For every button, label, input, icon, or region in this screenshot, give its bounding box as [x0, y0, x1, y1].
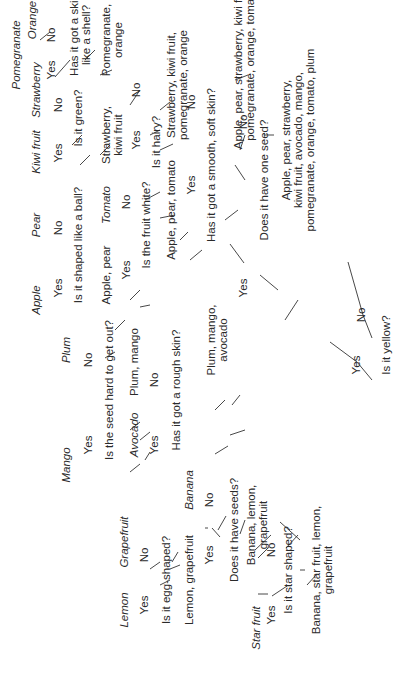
leaf-star-fruit: Star fruit — [250, 606, 262, 649]
set-strawberry-kiwi-pomegranate-orange: Strawberry, kiwi fruit, pomegranate, ora… — [165, 30, 189, 140]
answer-yes: Yes — [138, 596, 150, 615]
answer-yes: Yes — [148, 436, 160, 455]
set-line: Pomegranate, — [100, 4, 112, 76]
question-has-it-got-a-skin-like-a-shell: Has it got a skin like a shell? — [68, 0, 92, 76]
answer-yes: Yes — [237, 279, 249, 298]
set-lemon-grapefruit: Lemon, grapefruit — [183, 535, 195, 625]
answer-yes: Yes — [203, 546, 215, 565]
answer-no: No — [120, 195, 132, 210]
answer-yes: Yes — [265, 606, 277, 625]
set-plum-mango: Plum, mango — [128, 328, 140, 396]
leaf-orange: Orange — [26, 1, 38, 39]
answer-no: No — [130, 83, 142, 98]
question-is-it-egg-shaped: Is it egg-shaped? — [160, 536, 172, 624]
question-is-the-seed-hard-to-get-out: Is the seed hard to get out? — [103, 320, 115, 460]
answer-no: No — [138, 548, 150, 563]
answer-no: No — [52, 221, 64, 236]
question-is-it-green: Is it green? — [72, 90, 84, 147]
set-apple-pear: Apple, pear — [100, 246, 112, 305]
leaf-avocado: Avocado — [128, 413, 140, 458]
set-line: grapefruit — [322, 506, 334, 634]
set-line: pomegranate, orange — [177, 30, 189, 140]
question-is-it-yellow: Is it yellow? — [380, 315, 392, 374]
question-is-it-shaped-like-a-ball: Is it shaped like a ball? — [72, 187, 84, 303]
leaf-pear: Pear — [30, 213, 42, 237]
leaf-tomato: Tomato — [100, 186, 112, 224]
set-line: Banana, lemon, — [245, 485, 257, 566]
set-apple-pear-strawberry-kiwi-pomegranate-orange-tomato: Apple, pear, strawberry, kiwi fruit, pom… — [232, 0, 256, 149]
set-banana-lemon-grapefruit: Banana, lemon, grapefruit — [245, 485, 269, 566]
set-all-non-yellow: Apple, pear, strawberry, kiwi fruit, avo… — [280, 49, 316, 232]
set-line: pomegranate, orange, tomato — [244, 0, 256, 149]
set-plum-mango-avocado: Plum, mango, avocado — [205, 305, 229, 376]
set-banana-starfruit-lemon-grapefruit: Banana, star fruit, lemon, grapefruit — [310, 506, 334, 634]
leaf-mango: Mango — [60, 447, 72, 482]
question-is-the-fruit-white: Is the fruit white? — [140, 182, 152, 269]
fruit-decision-tree: Is it yellow? Yes No Banana, star fruit,… — [0, 0, 401, 680]
set-line: Apple, pear, strawberry, — [280, 49, 292, 232]
leaf-lemon: Lemon — [118, 592, 130, 627]
leaf-plum: Plum — [60, 337, 72, 363]
set-line: grapefruit — [257, 485, 269, 566]
question-is-it-hairy: Is it hairy? — [150, 116, 162, 168]
answer-yes: Yes — [120, 261, 132, 280]
answer-yes: Yes — [52, 279, 64, 298]
set-line: kiwi fruit, avocado, mango, — [292, 49, 304, 232]
answer-no: No — [82, 353, 94, 368]
set-strawberry-kiwi: Strawberry, kiwi fruit — [100, 106, 124, 164]
question-line: Has it got a skin — [68, 0, 80, 76]
set-line: Apple, pear, strawberry, kiwi fruit, — [232, 0, 244, 149]
set-line: Banana, star fruit, lemon, — [310, 506, 322, 634]
answer-no: No — [45, 28, 57, 43]
answer-yes: Yes — [130, 131, 142, 150]
leaf-grapefruit: Grapefruit — [118, 516, 130, 567]
set-line: Strawberry, — [100, 106, 112, 164]
leaf-banana: Banana — [183, 470, 195, 510]
set-line: Strawberry, kiwi fruit, — [165, 30, 177, 140]
set-line: avocado — [217, 305, 229, 376]
set-line: kiwi fruit — [112, 106, 124, 164]
answer-no: No — [148, 373, 160, 388]
question-does-it-have-one-seed: Does it have one seed? — [258, 120, 270, 241]
question-has-it-got-a-smooth-soft-skin: Has it got a smooth, soft skin? — [205, 88, 217, 242]
answer-yes: Yes — [45, 61, 57, 80]
set-line: Plum, mango, — [205, 305, 217, 376]
answer-yes: Yes — [185, 176, 197, 195]
answer-no: No — [203, 493, 215, 508]
set-apple-pear-tomato: Apple, pear, tomato — [165, 160, 177, 260]
set-pomegranate-orange: Pomegranate, orange — [100, 4, 124, 76]
question-does-it-have-seeds: Does it have seeds? — [228, 478, 240, 582]
leaf-pomegranate: Pomegranate — [10, 20, 22, 89]
set-line: orange — [112, 4, 124, 76]
question-line: like a shell? — [80, 0, 92, 76]
answer-no: No — [355, 308, 367, 323]
question-has-it-got-a-rough-skin: Has it got a rough skin? — [170, 330, 182, 451]
answer-yes: Yes — [52, 144, 64, 163]
leaf-apple: Apple — [30, 285, 42, 314]
answer-no: No — [52, 98, 64, 113]
leaf-kiwi-fruit: Kiwi fruit — [30, 130, 42, 173]
question-is-it-star-shaped: Is it star shaped? — [282, 526, 294, 614]
answer-yes: Yes — [82, 436, 94, 455]
answer-yes: Yes — [350, 356, 362, 375]
leaf-strawberry: Strawberry — [30, 62, 42, 118]
set-line: pomegranate, orange, tomato, plum — [304, 49, 316, 232]
